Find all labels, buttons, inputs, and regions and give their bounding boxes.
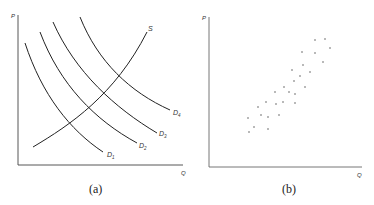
figure: P Q S D1 D2 D3 D4 (a) P Q (b)	[0, 0, 374, 205]
scatter-point	[248, 131, 250, 133]
scatter-point	[265, 101, 267, 103]
scatter-point	[314, 52, 316, 54]
x-axis-label: Q	[357, 172, 362, 178]
scatter-point	[294, 102, 296, 104]
scatter-point	[291, 69, 293, 71]
scatter-point	[301, 51, 303, 53]
scatter-point	[282, 101, 284, 103]
scatter-point	[283, 86, 285, 88]
scatter-point	[304, 86, 306, 88]
y-axis-label: P	[11, 13, 15, 19]
scatter-point	[267, 116, 269, 118]
scatter-point	[257, 106, 259, 108]
scatter-point	[299, 75, 301, 77]
scatter-point	[275, 103, 277, 105]
label-d1: D1	[107, 151, 115, 160]
panel-b: P Q (b)	[202, 15, 362, 196]
scatter-point	[322, 61, 324, 63]
demand-curve-d2	[40, 32, 137, 143]
caption-a: (a)	[89, 182, 102, 196]
label-s: S	[148, 25, 153, 32]
scatter-points	[247, 38, 331, 133]
scatter-point	[247, 117, 249, 119]
scatter-point	[274, 91, 276, 93]
label-d4: D4	[173, 109, 181, 118]
scatter-point	[253, 126, 255, 128]
supply-curve	[33, 32, 147, 147]
x-axis-label: Q	[181, 170, 186, 176]
scatter-point	[260, 114, 262, 116]
panel-a: P Q S D1 D2 D3 D4 (a)	[11, 13, 186, 196]
scatter-point	[302, 64, 304, 66]
y-axis-label: P	[202, 15, 206, 21]
scatter-point	[314, 39, 316, 41]
scatter-point	[309, 71, 311, 73]
scatter-point	[267, 128, 269, 130]
scatter-point	[288, 91, 290, 93]
scatter-point	[329, 47, 331, 49]
scatter-point	[324, 38, 326, 40]
demand-curve-d1	[25, 43, 103, 152]
demand-curve-d4	[80, 17, 170, 110]
scatter-point	[278, 114, 280, 116]
scatter-point	[293, 80, 295, 82]
label-d3: D3	[159, 130, 167, 139]
demand-curve-d3	[53, 22, 157, 133]
caption-b: (b)	[282, 182, 296, 196]
scatter-point	[294, 93, 296, 95]
label-d2: D2	[139, 142, 147, 151]
